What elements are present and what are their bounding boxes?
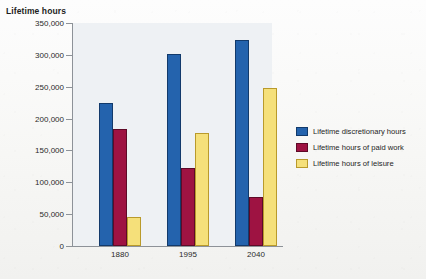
y-axis-tick-label: 300,000 (35, 50, 64, 59)
bar-1880-paid-work (113, 129, 127, 246)
bar-1995-discretionary (167, 54, 181, 246)
chart-legend: Lifetime discretionary hours Lifetime ho… (296, 127, 406, 175)
legend-item-paid-work: Lifetime hours of paid work (296, 143, 406, 152)
legend-swatch-icon-yellow (296, 159, 308, 168)
bar-2040-leisure (263, 88, 277, 246)
legend-item-leisure: Lifetime hours of leisure (296, 159, 406, 168)
chart-page: Lifetime hours 050,000100,000150,000200,… (0, 0, 426, 279)
y-axis-labels: 050,000100,000150,000200,000250,000300,0… (0, 0, 64, 279)
bar-2040-discretionary (235, 40, 249, 246)
legend-item-discretionary: Lifetime discretionary hours (296, 127, 406, 136)
y-axis-tick-label: 100,000 (35, 178, 64, 187)
x-axis-tick-label: 1880 (111, 250, 129, 259)
legend-swatch-icon-maroon (296, 143, 308, 152)
y-axis-tick-label: 350,000 (35, 19, 64, 28)
y-axis-tick-label: 250,000 (35, 82, 64, 91)
y-axis-tick-label: 150,000 (35, 146, 64, 155)
y-axis-tick-label: 0 (60, 242, 64, 251)
legend-label: Lifetime hours of paid work (313, 143, 404, 152)
legend-label: Lifetime hours of leisure (313, 159, 394, 168)
bar-1880-leisure (127, 217, 141, 246)
x-axis-line (72, 246, 283, 247)
x-axis-tick-label: 1995 (179, 250, 197, 259)
legend-swatch-icon-blue (296, 127, 308, 136)
x-axis-tick-label: 2040 (247, 250, 265, 259)
bar-series-container (72, 23, 283, 246)
bar-2040-paid-work (249, 197, 263, 246)
y-axis-tick (66, 246, 72, 247)
y-axis-tick-label: 200,000 (35, 114, 64, 123)
bar-1995-paid-work (181, 168, 195, 246)
y-axis-tick-label: 50,000 (40, 210, 64, 219)
bar-1995-leisure (195, 133, 209, 246)
legend-label: Lifetime discretionary hours (313, 127, 406, 136)
bar-1880-discretionary (99, 103, 113, 246)
